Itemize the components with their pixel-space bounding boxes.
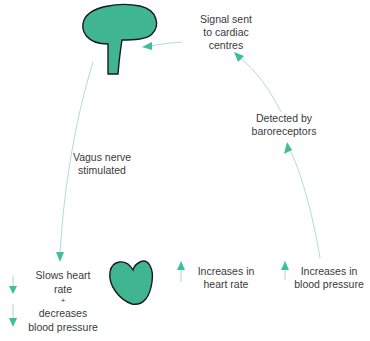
arrow-detect-to-signal	[240, 58, 281, 112]
increase-arrow-hr-icon	[177, 261, 185, 282]
inc-hr-label: Increases in heart rate	[190, 265, 262, 291]
label-line: +	[22, 296, 104, 306]
decrease-arrow-hr-icon	[9, 276, 17, 294]
signal-label: Signal sent to cardiac centres	[186, 13, 266, 52]
arrow-bp-to-detect	[290, 150, 320, 258]
label-line: Increases in	[288, 265, 370, 278]
label-line: Vagus nerve	[62, 151, 142, 164]
label-line: stimulated	[62, 164, 142, 177]
label-line: centres	[186, 39, 266, 52]
label-line: heart rate	[190, 278, 262, 291]
label-line: baroreceptors	[242, 125, 326, 138]
arrowhead-left-icon	[142, 42, 152, 50]
slows-label: Slows heart rate + decreases blood press…	[22, 268, 104, 334]
label-line: decreases	[22, 306, 104, 320]
vagus-label: Vagus nerve stimulated	[62, 151, 142, 177]
label-line: Detected by	[242, 112, 326, 125]
detected-label: Detected by baroreceptors	[242, 112, 326, 138]
label-line: rate	[22, 282, 104, 296]
decrease-arrow-bp-icon	[9, 304, 17, 327]
label-line: blood pressure	[22, 320, 104, 334]
label-line: Signal sent	[186, 13, 266, 26]
brain-stem-shape	[83, 5, 157, 74]
heart-shape	[110, 261, 153, 304]
label-line: Increases in	[190, 265, 262, 278]
arrowhead-down-icon	[56, 252, 64, 262]
label-line: Slows heart	[22, 268, 104, 282]
inc-bp-label: Increases in blood pressure	[288, 265, 370, 291]
arrow-signal-to-brain	[150, 42, 182, 46]
label-line: blood pressure	[288, 278, 370, 291]
label-line: to cardiac	[186, 26, 266, 39]
